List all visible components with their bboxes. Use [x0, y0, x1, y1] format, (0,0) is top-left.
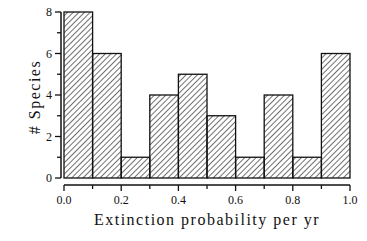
x-tick-label: 0.8	[285, 193, 300, 207]
y-axis-title: # Species	[26, 60, 44, 134]
histogram-bar	[150, 95, 179, 178]
histogram-bar	[321, 54, 350, 179]
histogram-bar	[207, 116, 236, 178]
histogram-bar	[178, 74, 207, 178]
histogram-bar	[121, 157, 150, 178]
y-tick-label: 2	[46, 130, 52, 144]
x-tick-label: 0.0	[57, 193, 72, 207]
x-tick-label: 1.0	[343, 193, 358, 207]
bars-group	[64, 12, 350, 178]
y-axis: 02468	[46, 5, 61, 185]
y-tick-label: 0	[46, 171, 52, 185]
histogram-chart: 02468 0.00.20.40.60.81.0 # Species Extin…	[0, 0, 367, 241]
histogram-bar	[93, 54, 122, 179]
x-tick-label: 0.4	[171, 193, 186, 207]
histogram-bar	[64, 12, 93, 178]
y-tick-label: 8	[46, 5, 52, 19]
x-tick-label: 0.2	[114, 193, 129, 207]
x-axis: 0.00.20.40.60.81.0	[57, 185, 358, 207]
x-axis-title: Extinction probability per yr	[94, 211, 320, 229]
histogram-bar	[293, 157, 322, 178]
x-tick-label: 0.6	[228, 193, 243, 207]
histogram-bar	[264, 95, 293, 178]
histogram-bar	[236, 157, 265, 178]
y-tick-label: 4	[46, 88, 52, 102]
y-tick-label: 6	[46, 47, 52, 61]
